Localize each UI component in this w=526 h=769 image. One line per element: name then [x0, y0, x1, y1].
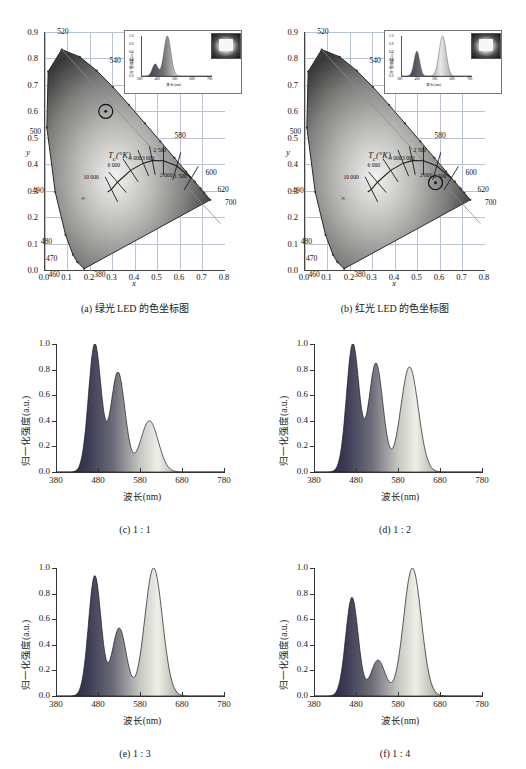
spectrum-x-tickmark [140, 468, 141, 472]
locus-wavelength-label: 490 [32, 186, 43, 195]
spectrum-x-tick: 380 [297, 475, 331, 485]
locus-tick [194, 181, 196, 183]
cie-y-tick: 0.2 [12, 212, 38, 222]
spectrum-x-axis-label: 波长(nm) [280, 489, 520, 503]
spectrum-y-tickmark [52, 472, 56, 473]
spectrum-y-tickmark [310, 370, 314, 371]
spectrum-y-tick: 1.0 [278, 338, 308, 348]
spectrum-x-tick: 780 [207, 475, 241, 485]
locus-tick [469, 199, 471, 201]
spectrum-y-tickmark [52, 446, 56, 447]
cie-y-tick: 0.9 [12, 27, 38, 37]
panel-d-spectrum: 0.00.20.40.60.81.0380480580680780归一化强度(a… [262, 332, 502, 537]
spectrum-x-tick: 680 [165, 475, 199, 485]
spectrum-x-tick: 380 [39, 699, 73, 709]
spectrum-x-tickmark [182, 692, 183, 696]
spectrum-y-tickmark [52, 344, 56, 345]
inset-y-tick: 0.8 [129, 42, 134, 46]
locus-wavelength-label: 520 [317, 27, 328, 36]
inset-x-tick: 680 [450, 77, 455, 81]
planckian-temperature-label: 10 000 [343, 174, 358, 180]
cie-y-tick: 0.6 [272, 106, 298, 116]
locus-wavelength-label: 470 [306, 254, 317, 263]
locus-wavelength-label: 540 [369, 56, 380, 65]
spectrum-y-tick: 0.8 [278, 588, 308, 598]
locus-wavelength-label: 700 [485, 198, 496, 207]
spectrum-y-tick: 1.0 [20, 562, 50, 572]
spectrum-x-tick: 580 [123, 699, 157, 709]
spectrum-x-tickmark [440, 692, 441, 696]
cie-a-ylabel: y [26, 147, 30, 157]
led-chip-photo [471, 33, 501, 59]
spectrum-y-tickmark [52, 645, 56, 646]
cie-y-tick: 0.6 [12, 106, 38, 116]
spectrum-plot-area [314, 568, 483, 697]
locus-tick [96, 69, 98, 71]
spectrum-y-tickmark [310, 421, 314, 422]
panel-b-cie-diagram: y x 0.00.10.20.30.40.50.60.70.80.90.00.1… [268, 22, 500, 290]
locus-tick [64, 234, 66, 236]
spectrum-x-tickmark [224, 692, 225, 696]
led-chip-photo [211, 33, 241, 59]
spectrum-y-tickmark [52, 421, 56, 422]
locus-wavelength-label: 480 [41, 237, 52, 246]
spectrum-x-tickmark [224, 468, 225, 472]
spectrum-y-tickmark [310, 344, 314, 345]
spectrum-x-tickmark [98, 692, 99, 696]
locus-tick [463, 192, 465, 194]
spectrum-x-tickmark [356, 468, 357, 472]
inset-y-tick: 0.0 [129, 74, 134, 78]
planckian-temperature-label: 2 500 [154, 147, 167, 153]
spectrum-y-tickmark [52, 370, 56, 371]
spectrum-plot-area [56, 568, 225, 697]
inset-x-axis-label: 波长(nm) [166, 82, 181, 87]
caption-panel-b: (b) 红光 LED 的色坐标图 [132, 300, 526, 315]
spectrum-x-tick: 580 [123, 475, 157, 485]
spectrum-x-tickmark [98, 468, 99, 472]
cie-y-tick: 0.7 [12, 80, 38, 90]
locus-tick [72, 254, 74, 256]
planckian-temperature-label: 1 500 [434, 173, 447, 179]
spectrum-x-axis-label: 波长(nm) [22, 713, 262, 727]
planckian-temperature-label: 2 000 [420, 172, 433, 178]
locus-tick [47, 71, 49, 73]
inset-x-tick: 580 [432, 77, 437, 81]
spectrum-y-tickmark [52, 619, 56, 620]
locus-tick [128, 104, 130, 106]
spectrum-y-tickmark [52, 670, 56, 671]
inset-plot-area [401, 36, 472, 77]
planckian-title: Tc(°K) [368, 150, 391, 163]
spectrum-y-tick: 0.8 [278, 364, 308, 374]
panel-c-spectrum: 0.00.20.40.60.81.0380480580680780归一化强度(a… [4, 332, 244, 537]
cie-y-tick: 0.4 [12, 159, 38, 169]
locus-tick [419, 140, 421, 142]
spectrum-x-tick: 480 [81, 475, 115, 485]
spectrum-y-tick: 0.8 [20, 364, 50, 374]
spectrum-y-tickmark [310, 645, 314, 646]
locus-wavelength-label: 500 [290, 127, 301, 136]
cie-y-tick: 0.1 [12, 239, 38, 249]
locus-tick [339, 56, 341, 58]
locus-tick [54, 191, 56, 193]
cie-b-ylabel: y [286, 147, 290, 157]
cie-x-tick: 0.8 [211, 272, 237, 282]
cie-y-tick: 0.8 [272, 53, 298, 63]
locus-tick [388, 104, 390, 106]
locus-wavelength-label: 460 [308, 270, 319, 279]
caption-panel-d: (d) 1 : 2 [132, 524, 526, 535]
cie-y-tick: 0.4 [272, 159, 298, 169]
locus-tick [372, 86, 374, 88]
spectrum-plot-area [56, 344, 225, 473]
locus-tick [159, 140, 161, 142]
inset-x-tick: 480 [415, 77, 420, 81]
spectrum-y-tick: 0.8 [20, 588, 50, 598]
locus-tick [356, 69, 358, 71]
spectrum-y-tick: 1.0 [278, 562, 308, 572]
locus-wavelength-label: 490 [292, 186, 303, 195]
inset-spectrum-panel: 3804805806807800.00.20.40.60.81.0波长(nm)归… [384, 30, 502, 94]
caption-panel-f: (f) 1 : 4 [132, 748, 526, 759]
spectrum-x-tick: 780 [207, 699, 241, 709]
spectrum-x-tickmark [314, 692, 315, 696]
locus-tick [199, 187, 201, 189]
spectrum-y-tickmark [310, 594, 314, 595]
